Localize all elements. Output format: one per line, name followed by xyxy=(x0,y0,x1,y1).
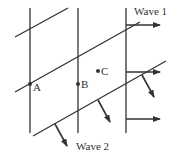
wave2-label: Wave 2 xyxy=(76,140,109,152)
wave2-direction-arrows xyxy=(55,75,154,146)
labeled-points: ABC xyxy=(28,65,108,93)
point-a-label: A xyxy=(33,81,41,93)
wave1-label: Wave 1 xyxy=(134,5,167,17)
wave1-crest-lines xyxy=(30,8,126,133)
wave2-arrow-icon xyxy=(55,124,67,146)
point-c-label: C xyxy=(101,65,108,77)
wave2-arrow-icon xyxy=(98,100,110,122)
point-b-label: B xyxy=(81,78,88,90)
point-c-dot xyxy=(96,69,100,73)
point-b-dot xyxy=(76,82,80,86)
wave-interference-diagram: ABC Wave 1 Wave 2 xyxy=(0,0,175,165)
point-a-dot xyxy=(28,82,32,86)
wave2-crest-line xyxy=(15,8,68,37)
wave2-arrow-icon xyxy=(142,75,154,97)
wave1-direction-arrows xyxy=(126,25,160,119)
